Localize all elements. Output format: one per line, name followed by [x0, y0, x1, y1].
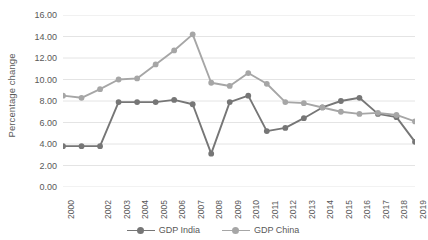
- x-axis-tick-label: 2003: [123, 200, 132, 219]
- x-axis-tick-label: 2009: [234, 200, 243, 219]
- data-point-marker: [208, 80, 214, 86]
- x-axis-tick-label: 2018: [400, 200, 409, 219]
- data-point-marker: [79, 95, 85, 101]
- y-axis-tick-label: 16.00: [19, 11, 57, 20]
- data-point-marker: [134, 99, 140, 105]
- x-axis-tick-label: 2002: [104, 200, 113, 219]
- y-axis-tick-label: 2.00: [19, 161, 57, 170]
- data-point-marker: [153, 62, 159, 68]
- x-axis-tick-label: 2008: [215, 200, 224, 219]
- data-point-marker: [227, 83, 233, 89]
- data-point-marker: [190, 31, 196, 37]
- x-axis-tick-label: 2011: [271, 201, 280, 219]
- y-axis-tick-label: 14.00: [19, 32, 57, 41]
- x-axis-tick-label: 2017: [382, 200, 391, 219]
- data-point-marker: [97, 143, 103, 149]
- data-point-marker: [63, 93, 66, 99]
- data-point-marker: [63, 143, 66, 149]
- x-axis-tick-label: 2015: [345, 200, 354, 219]
- data-point-marker: [227, 99, 233, 105]
- data-point-marker: [357, 95, 363, 101]
- data-point-marker: [245, 93, 251, 99]
- data-point-marker: [116, 77, 122, 83]
- legend-marker-icon: [232, 227, 239, 234]
- x-axis-tick-label: 2019: [419, 200, 428, 219]
- legend-entry[interactable]: GDP China: [222, 225, 299, 235]
- data-point-marker: [357, 111, 363, 117]
- data-series-layer: [63, 15, 415, 187]
- data-point-marker: [282, 99, 288, 105]
- x-axis-tick-labels: 2000200220032004200520062007200820092010…: [63, 189, 415, 221]
- data-point-marker: [264, 81, 270, 87]
- data-point-marker: [153, 99, 159, 105]
- data-point-marker: [412, 119, 415, 125]
- data-point-marker: [338, 98, 344, 104]
- data-point-marker: [245, 70, 251, 76]
- data-point-marker: [301, 100, 307, 106]
- legend-swatch: [127, 226, 155, 235]
- data-point-marker: [171, 48, 177, 54]
- data-point-marker: [394, 112, 400, 118]
- x-axis-tick-label: 2000: [67, 200, 76, 219]
- chart-legend: GDP IndiaGDP China: [0, 222, 426, 238]
- x-axis-tick-label: 2012: [289, 200, 298, 219]
- data-point-marker: [190, 101, 196, 107]
- data-point-marker: [171, 97, 177, 103]
- legend-swatch: [222, 226, 250, 235]
- y-axis-tick-label: 4.00: [19, 140, 57, 149]
- legend-entry[interactable]: GDP India: [127, 225, 200, 235]
- data-point-marker: [134, 76, 140, 82]
- plot-area: [63, 15, 415, 187]
- data-point-marker: [116, 99, 122, 105]
- legend-label: GDP India: [159, 225, 200, 235]
- legend-label: GDP China: [254, 225, 299, 235]
- x-axis-tick-label: 2013: [308, 200, 317, 219]
- data-point-marker: [208, 151, 214, 157]
- data-point-marker: [375, 110, 381, 116]
- data-point-marker: [338, 109, 344, 115]
- x-axis-tick-label: 2014: [326, 200, 335, 219]
- legend-marker-icon: [137, 227, 144, 234]
- data-point-marker: [97, 86, 103, 92]
- y-axis-title-label: Percentage change: [6, 53, 17, 137]
- y-axis-tick-label: 0.00: [19, 183, 57, 192]
- data-point-marker: [282, 125, 288, 131]
- data-point-marker: [79, 143, 85, 149]
- data-point-marker: [301, 115, 307, 121]
- y-axis-tick-label: 10.00: [19, 75, 57, 84]
- x-axis-tick-label: 2007: [197, 200, 206, 219]
- y-axis-tick-labels: 16.0014.0012.0010.008.006.004.002.000.00: [22, 15, 60, 187]
- y-axis-tick-label: 8.00: [19, 97, 57, 106]
- y-axis-tick-label: 12.00: [19, 54, 57, 63]
- x-axis-tick-label: 2010: [252, 200, 261, 219]
- data-point-marker: [264, 128, 270, 134]
- x-axis-tick-label: 2005: [160, 200, 169, 219]
- y-axis-tick-label: 6.00: [19, 118, 57, 127]
- series-gdp-india: [63, 93, 415, 157]
- x-axis-tick-label: 2006: [178, 200, 187, 219]
- series-line: [63, 96, 415, 154]
- x-axis-tick-label: 2004: [141, 200, 150, 219]
- x-axis-tick-label: 2016: [363, 200, 372, 219]
- data-point-marker: [319, 105, 325, 111]
